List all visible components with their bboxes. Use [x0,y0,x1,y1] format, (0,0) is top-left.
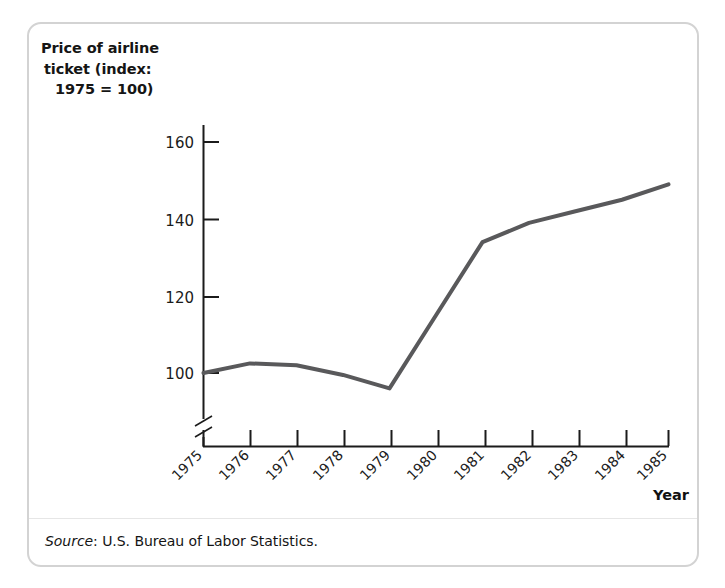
source-note: Source: U.S. Bureau of Labor Statistics. [45,533,318,549]
y-tick-label-140: 140 [165,212,194,230]
x-tick-label-1978: 1978 [310,447,347,484]
x-tick-label-1983: 1983 [545,447,582,484]
x-tick-label-1977: 1977 [263,447,300,484]
x-axis-title: Year [653,487,689,503]
x-tick-label-1976: 1976 [216,447,253,484]
x-axis-tick-labels: 1975 1976 1977 1978 1979 1980 1981 1982 … [169,447,671,484]
y-tick-label-120: 120 [165,289,194,307]
x-tick-label-1981: 1981 [451,447,488,484]
x-axis-ticks [204,430,669,446]
x-tick-label-1984: 1984 [592,447,629,484]
x-tick-label-1979: 1979 [357,447,394,484]
source-label: Source [45,533,93,549]
chart-plot-area: 160 140 120 100 1975 1976 1977 1978 1979… [0,0,725,588]
y-axis-tick-labels: 160 140 120 100 [165,134,194,383]
x-tick-label-1982: 1982 [498,447,535,484]
axis-lines [203,125,669,447]
y-tick-label-160: 160 [165,134,194,152]
x-tick-label-1975: 1975 [169,447,206,484]
data-series-line [204,184,669,388]
y-tick-label-100: 100 [165,365,194,383]
x-tick-label-1985: 1985 [634,447,671,484]
source-text: : U.S. Bureau of Labor Statistics. [93,533,318,549]
source-divider [29,518,697,519]
x-tick-label-1980: 1980 [404,447,441,484]
y-axis-ticks [203,142,219,373]
